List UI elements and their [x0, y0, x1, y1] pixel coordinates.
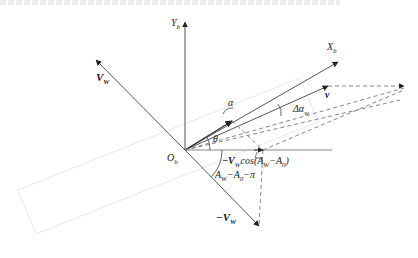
label-v: v	[325, 90, 329, 100]
label-delta-alpha: Δαw	[293, 104, 309, 117]
label-projection: −VWcos(AW−A0)	[222, 156, 289, 169]
inner-component-vector	[185, 121, 232, 150]
vector-diagram	[0, 0, 418, 258]
label-xb: Xb	[327, 42, 337, 55]
label-vw: VW	[96, 72, 110, 86]
delta-alpha-arc	[278, 104, 281, 116]
label-alpha: α	[228, 98, 233, 108]
label-theta: θ	[213, 134, 218, 144]
alpha-arc	[223, 108, 233, 114]
xb-axis	[185, 62, 338, 150]
label-angle-aw: AW−A0−π	[215, 170, 255, 183]
label-origin: Ob	[167, 153, 178, 166]
label-neg-vw: −VW	[216, 212, 236, 226]
label-yb: Yb	[171, 18, 180, 31]
